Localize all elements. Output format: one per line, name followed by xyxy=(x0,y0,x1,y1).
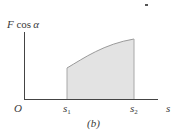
scan-artifact-dot xyxy=(145,4,148,6)
x-axis-label: s xyxy=(166,103,170,114)
y-axis-label: F cosα xyxy=(7,19,39,30)
figure-caption: (b) xyxy=(87,118,100,129)
caption-text: (b) xyxy=(87,117,100,129)
tick-s1-sub: 1 xyxy=(67,108,71,116)
shaded-work-area xyxy=(67,39,134,99)
y-label-var: F xyxy=(7,18,14,30)
tick-s1: s1 xyxy=(63,103,71,114)
work-diagram: F cosα O s1 s2 s (b) xyxy=(0,0,181,135)
y-label-greek: α xyxy=(33,18,39,30)
origin-label: O xyxy=(14,103,22,114)
tick-s2-sub: 2 xyxy=(134,108,138,116)
y-label-func: cos xyxy=(16,18,31,30)
tick-s2: s2 xyxy=(130,103,138,114)
